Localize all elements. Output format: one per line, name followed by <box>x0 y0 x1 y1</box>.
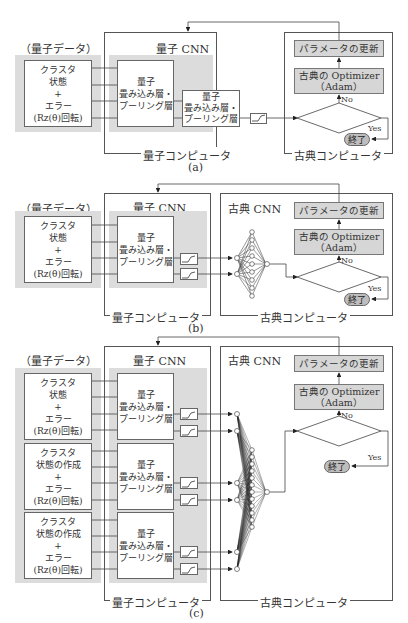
connector-lines <box>0 0 408 623</box>
